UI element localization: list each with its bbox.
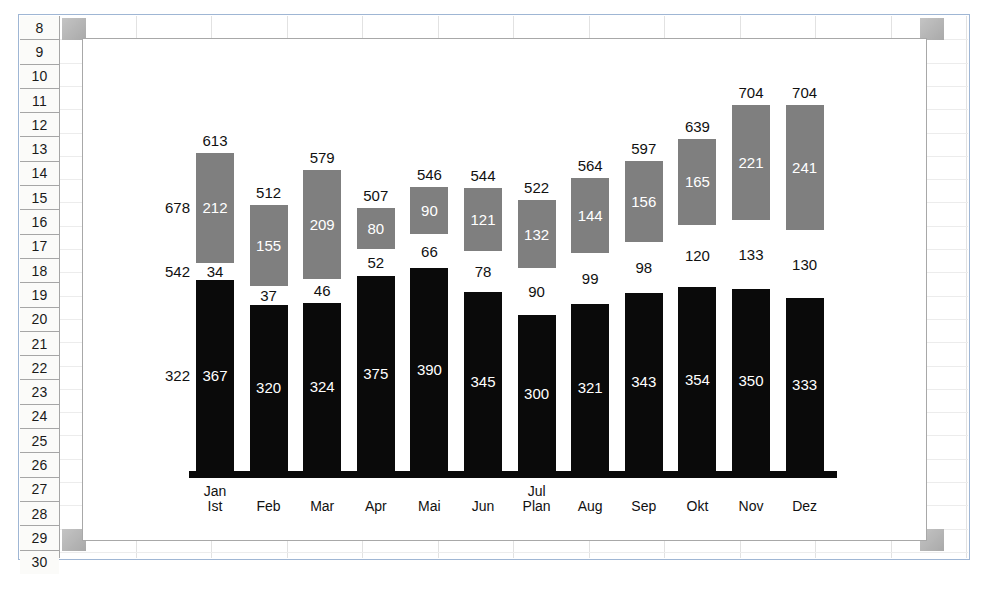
bar-segment-bottom[interactable]: 367	[196, 280, 234, 471]
bar-segment-middle[interactable]: 46	[303, 279, 341, 303]
row-header-14[interactable]: 14	[20, 162, 59, 186]
row-header-25[interactable]: 25	[20, 429, 59, 453]
screen: 8910111213141516171819202122232425262728…	[0, 0, 986, 597]
bar-segment-top[interactable]: 221	[732, 105, 770, 220]
row-header-19[interactable]: 19	[20, 283, 59, 307]
category-label: Feb	[239, 499, 299, 514]
category-label: Jun	[453, 499, 513, 514]
bar-total-label: 579	[295, 150, 349, 165]
bar-group[interactable]: 32446209	[303, 170, 341, 471]
bar-segment-bottom[interactable]: 354	[678, 287, 716, 471]
bar-segment-middle[interactable]: 98	[625, 242, 663, 293]
bar-segment-bottom[interactable]: 333	[786, 298, 824, 471]
bar-group[interactable]: 333130241	[786, 105, 824, 471]
bar-group[interactable]: 30090132	[518, 200, 556, 471]
row-header-28[interactable]: 28	[20, 502, 59, 526]
bar-segment-top[interactable]: 165	[678, 139, 716, 225]
bar-segment-top[interactable]: 156	[625, 161, 663, 242]
bar-total-label: 522	[510, 180, 564, 195]
bar-segment-bottom[interactable]: 343	[625, 293, 663, 471]
category-label-line: Apr	[346, 499, 406, 514]
row-header-17[interactable]: 17	[20, 235, 59, 259]
bar-segment-top[interactable]: 155	[250, 205, 288, 286]
category-label-line: Nov	[721, 499, 781, 514]
bar-segment-middle[interactable]: 78	[464, 251, 502, 292]
bar-group[interactable]: 34398156	[625, 161, 663, 471]
row-header-23[interactable]: 23	[20, 380, 59, 404]
bar-group[interactable]: 3755280	[357, 208, 395, 471]
row-header-13[interactable]: 13	[20, 137, 59, 161]
bar-segment-middle[interactable]: 133	[732, 220, 770, 289]
row-header-20[interactable]: 20	[20, 308, 59, 332]
bar-segment-bottom[interactable]: 345	[464, 292, 502, 471]
row-header-30[interactable]: 30	[20, 551, 59, 574]
bar-group[interactable]: 34578121	[464, 188, 502, 471]
bar-group[interactable]: 36734212	[196, 153, 234, 471]
bar-group[interactable]: 32037155	[250, 205, 288, 471]
bar-segment-middle[interactable]: 66	[410, 234, 448, 268]
category-label-line: Feb	[239, 499, 299, 514]
bar-segment-middle[interactable]: 52	[357, 249, 395, 276]
selection-handle-top-right[interactable]	[920, 18, 944, 40]
category-label: Mar	[292, 499, 352, 514]
category-label-line: Ist	[185, 499, 245, 514]
bar-segment-bottom[interactable]: 390	[410, 268, 448, 471]
bar-segment-top[interactable]: 80	[357, 208, 395, 250]
bar-group[interactable]: 3906690	[410, 187, 448, 471]
bar-segment-middle[interactable]: 37	[250, 286, 288, 305]
bar-segment-bottom[interactable]: 320	[250, 305, 288, 471]
bar-total-label: 546	[402, 167, 456, 182]
row-header-24[interactable]: 24	[20, 405, 59, 429]
bar-segment-top[interactable]: 132	[518, 200, 556, 269]
row-header-26[interactable]: 26	[20, 453, 59, 477]
bar-segment-bottom[interactable]: 300	[518, 315, 556, 471]
bar-segment-middle[interactable]: 90	[518, 268, 556, 315]
category-label: Apr	[346, 499, 406, 514]
series-side-annotation: 322	[138, 368, 190, 383]
row-header-15[interactable]: 15	[20, 186, 59, 210]
row-header-10[interactable]: 10	[20, 65, 59, 89]
category-label: Mai	[399, 499, 459, 514]
series-side-annotation: 542	[138, 264, 190, 279]
bar-total-label: 512	[242, 185, 296, 200]
row-header-16[interactable]: 16	[20, 210, 59, 234]
row-header-18[interactable]: 18	[20, 259, 59, 283]
row-header-8[interactable]: 8	[20, 16, 59, 40]
bar-segment-top[interactable]: 121	[464, 188, 502, 251]
series-side-annotation: 678	[138, 200, 190, 215]
bar-group[interactable]: 32199144	[571, 178, 609, 471]
plot-area: 613JanIst36734212512Feb32037155579Mar324…	[83, 39, 926, 540]
bar-segment-bottom[interactable]: 350	[732, 289, 770, 471]
bar-group[interactable]: 350133221	[732, 105, 770, 471]
bar-segment-bottom[interactable]: 375	[357, 276, 395, 471]
bar-total-label: 704	[724, 85, 778, 100]
bar-segment-top[interactable]: 241	[786, 105, 824, 230]
row-header-12[interactable]: 12	[20, 113, 59, 137]
row-header-27[interactable]: 27	[20, 478, 59, 502]
bar-segment-middle[interactable]: 130	[786, 230, 824, 298]
category-label: Okt	[667, 499, 727, 514]
bar-segment-top[interactable]: 144	[571, 178, 609, 253]
bar-segment-top[interactable]: 212	[196, 153, 234, 263]
row-header-11[interactable]: 11	[20, 89, 59, 113]
selection-handle-top-left[interactable]	[62, 18, 86, 40]
bar-group[interactable]: 354120165	[678, 139, 716, 471]
row-header-9[interactable]: 9	[20, 40, 59, 64]
bar-total-label: 544	[456, 168, 510, 183]
row-header-22[interactable]: 22	[20, 356, 59, 380]
bar-segment-middle[interactable]: 34	[196, 263, 234, 281]
bar-segment-top[interactable]: 90	[410, 187, 448, 234]
category-label-line: Plan	[507, 499, 567, 514]
bar-segment-bottom[interactable]: 324	[303, 303, 341, 471]
bar-segment-middle[interactable]: 120	[678, 225, 716, 287]
bar-segment-top[interactable]: 209	[303, 170, 341, 279]
row-header-29[interactable]: 29	[20, 526, 59, 550]
bar-segment-middle[interactable]: 99	[571, 253, 609, 304]
grid-line-vertical	[966, 16, 967, 558]
bar-segment-bottom[interactable]: 321	[571, 304, 609, 471]
chart-object[interactable]: 613JanIst36734212512Feb32037155579Mar324…	[82, 38, 927, 541]
grid-line-horizontal	[60, 552, 968, 553]
category-label-line: Mar	[292, 499, 352, 514]
bar-total-label: 597	[617, 141, 671, 156]
row-header-21[interactable]: 21	[20, 332, 59, 356]
